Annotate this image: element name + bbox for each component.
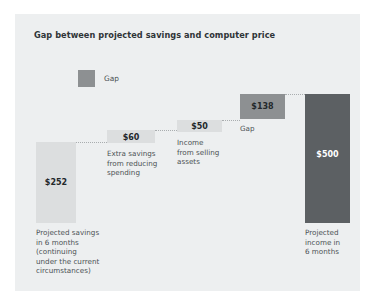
caption-line: Projected	[305, 228, 360, 238]
caption-line: under the current	[36, 257, 104, 267]
caption-gap: Gap	[240, 124, 290, 134]
caption-line: Income	[177, 138, 235, 148]
connector-1	[75, 142, 107, 143]
bar-value-projected-savings: $252	[36, 178, 76, 187]
bar-projected-savings[interactable]: $252	[36, 142, 76, 223]
bar-value-gap: $138	[240, 102, 285, 111]
bar-value-projected-income: $500	[305, 150, 350, 159]
connector-4	[285, 94, 305, 95]
connector-3	[222, 120, 240, 121]
caption-line: (continuing	[36, 247, 104, 257]
caption-extra-savings: Extra savings from reducing spending	[107, 149, 173, 178]
bar-value-extra-savings: $60	[107, 133, 155, 142]
caption-line: income in	[305, 238, 360, 248]
caption-line: Extra savings	[107, 149, 173, 159]
caption-line: assets	[177, 157, 235, 167]
caption-line: from reducing	[107, 159, 173, 169]
caption-line: circumstances)	[36, 266, 104, 276]
bar-extra-savings[interactable]: $60	[107, 130, 155, 143]
caption-line: spending	[107, 168, 173, 178]
waterfall-plot: $252 Projected savings in 6 months (cont…	[0, 0, 375, 308]
bar-gap[interactable]: $138	[240, 94, 285, 119]
bar-value-income-selling-assets: $50	[177, 122, 222, 131]
caption-line: Projected savings	[36, 228, 104, 238]
connector-2	[155, 130, 177, 131]
caption-projected-income: Projected income in 6 months	[305, 228, 360, 257]
bar-income-selling-assets[interactable]: $50	[177, 120, 222, 132]
caption-line: in 6 months	[36, 238, 104, 248]
caption-line: from selling	[177, 148, 235, 158]
caption-line: Gap	[240, 124, 290, 134]
bar-projected-income[interactable]: $500	[305, 94, 350, 223]
caption-income-selling-assets: Income from selling assets	[177, 138, 235, 167]
caption-line: 6 months	[305, 247, 360, 257]
caption-projected-savings: Projected savings in 6 months (continuin…	[36, 228, 104, 276]
